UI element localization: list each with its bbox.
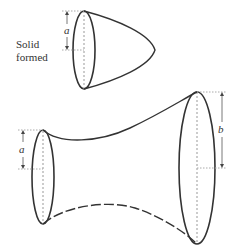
top-solid: a [62,11,155,89]
arrowhead-icon [65,11,69,15]
solid-formed-label-line2: formed [16,51,48,63]
arrowhead-icon [21,165,25,169]
arrowhead-icon [65,46,69,50]
diagram-canvas: a Solid formed a b [0,0,238,246]
bottom-left-radius-label: a [19,143,25,155]
bottom-right-radius-label: b [218,123,224,135]
bottom-solid: a b [18,92,226,244]
solid-formed-label-line1: Solid [16,38,40,50]
bottom-lower-profile [43,204,197,244]
bottom-upper-profile [43,92,197,140]
arrowhead-icon [220,164,224,168]
arrowhead-icon [21,130,25,134]
arrowhead-icon [220,92,224,96]
top-radius-label: a [64,24,70,36]
